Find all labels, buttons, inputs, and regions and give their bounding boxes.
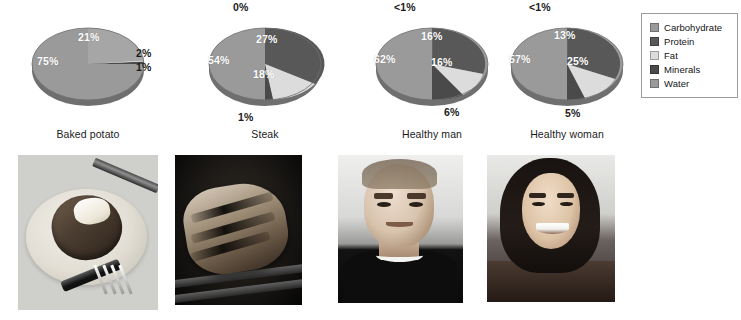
legend-swatch-water xyxy=(650,79,659,88)
eyebrow-shape xyxy=(407,193,426,198)
legend-item-fat: Fat xyxy=(650,49,731,62)
chart-panel-baked-potato: 75% 21% 2% 1% Baked potato xyxy=(8,0,168,150)
chart-caption-steak: Steak xyxy=(185,128,345,140)
slice-label-minerals: 1% xyxy=(238,112,253,123)
slice-label-fat: 18% xyxy=(253,69,274,80)
legend-swatch-carbohydrate xyxy=(650,23,659,32)
legend: Carbohydrate Protein Fat Minerals Water xyxy=(641,13,738,98)
eyebrow-shape xyxy=(529,193,546,197)
chart-panel-steak: 0% 27% 18% 54% 1% Steak xyxy=(185,0,345,150)
chart-caption-healthy-woman: Healthy woman xyxy=(487,128,647,140)
hair-shape xyxy=(362,159,437,189)
legend-item-carbohydrate: Carbohydrate xyxy=(650,21,731,34)
legend-swatch-fat xyxy=(650,51,659,60)
nutrition-composition-figure: 75% 21% 2% 1% Baked potato 0% 27% 18% 54… xyxy=(0,0,741,320)
legend-swatch-minerals xyxy=(650,65,659,74)
slice-label-water: 62% xyxy=(374,54,395,65)
slice-label-carbohydrate: 0% xyxy=(233,2,248,13)
legend-label-minerals: Minerals xyxy=(664,64,700,75)
photo-content xyxy=(487,155,615,302)
eye-shape xyxy=(377,202,391,206)
face-shape xyxy=(522,173,581,249)
legend-label-water: Water xyxy=(664,78,689,89)
slice-label-fat: 16% xyxy=(431,57,452,68)
eyebrow-shape xyxy=(374,193,393,198)
slice-label-water: 57% xyxy=(509,54,530,65)
legend-label-fat: Fat xyxy=(664,50,678,61)
legend-item-water: Water xyxy=(650,77,731,90)
slice-label-carbohydrate: <1% xyxy=(394,2,416,13)
legend-label-carbohydrate: Carbohydrate xyxy=(664,22,722,33)
slice-label-minerals: 5% xyxy=(565,108,580,119)
slice-label-fat: 1% xyxy=(136,62,151,73)
slice-label-protein: 2% xyxy=(136,48,151,59)
legend-label-protein: Protein xyxy=(664,36,694,47)
slice-label-carbohydrate: 21% xyxy=(78,32,99,43)
photo-content xyxy=(18,155,158,310)
knife-shape xyxy=(92,157,158,193)
slice-label-protein: 27% xyxy=(256,34,277,45)
eye-shape xyxy=(560,202,573,206)
eye-shape xyxy=(532,202,545,206)
slice-label-fat: 25% xyxy=(567,56,588,67)
photo-healthy-woman xyxy=(487,155,615,302)
chart-caption-baked-potato: Baked potato xyxy=(8,128,168,140)
photo-healthy-man xyxy=(338,155,463,303)
slice-label-carbohydrate: <1% xyxy=(529,2,551,13)
slice-label-minerals: 6% xyxy=(444,107,459,118)
photo-steak xyxy=(175,155,302,305)
chart-panel-healthy-woman: <1% 13% 25% 57% 5% Healthy woman xyxy=(487,0,647,150)
slice-label-protein: 13% xyxy=(554,30,575,41)
legend-swatch-protein xyxy=(650,37,659,46)
mouth-shape xyxy=(386,222,414,227)
photo-baked-potato xyxy=(18,155,158,310)
slice-label-water: 54% xyxy=(208,55,229,66)
eye-shape xyxy=(409,202,423,206)
eyebrow-shape xyxy=(557,193,574,197)
photo-content xyxy=(338,155,463,303)
legend-item-minerals: Minerals xyxy=(650,63,731,76)
photo-content xyxy=(175,155,302,305)
legend-item-protein: Protein xyxy=(650,35,731,48)
slice-label-protein: 16% xyxy=(421,31,442,42)
slice-label-water: 75% xyxy=(37,56,58,67)
collar-shape xyxy=(376,248,424,261)
